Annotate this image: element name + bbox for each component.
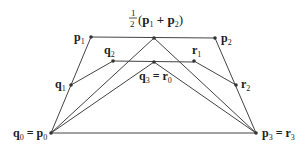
point-q1 [69, 83, 73, 87]
point-r2 [234, 83, 238, 87]
label-q0-equals-p0: q0 = p0 [13, 126, 47, 142]
label-p1: p1 [74, 30, 85, 46]
point-p2 [213, 36, 217, 40]
label-q1: q1 [55, 77, 66, 93]
label-q3-equals-r0: q3 = r0 [139, 69, 172, 85]
point-r1 [192, 59, 196, 63]
label-p2: p2 [221, 31, 232, 47]
fraction-denominator: 2 [130, 19, 135, 29]
label-r1: r1 [192, 43, 201, 59]
label-q2: q2 [104, 43, 115, 59]
label-midpoint-formula: 1 2 (p1 + p2) [129, 8, 183, 29]
point-q2 [111, 59, 115, 63]
bezier-subdivision-diagram: p1 p2 q1 q2 r1 r2 q3 = r0 q0 = p0 p3 = r… [0, 0, 306, 146]
midpoint-lines [51, 38, 256, 133]
point-q3 [152, 60, 156, 64]
formula-body: (p1 + p2) [138, 12, 183, 29]
point-p0 [49, 131, 53, 135]
point-midpoint [152, 36, 156, 40]
control-polygon [51, 37, 256, 133]
point-p3 [254, 131, 258, 135]
label-p3-equals-r3: p3 = r3 [262, 126, 295, 142]
label-r2: r2 [241, 77, 250, 93]
point-p1 [89, 35, 93, 39]
fraction-numerator: 1 [131, 8, 136, 18]
